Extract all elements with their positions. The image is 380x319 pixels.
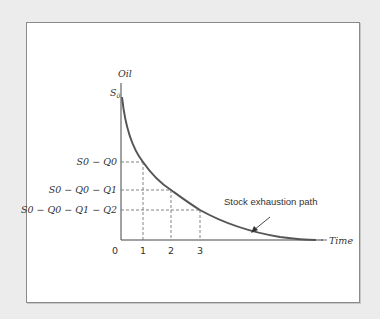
x-tick-3: 3 <box>197 245 203 256</box>
x-tick-1: 1 <box>140 245 146 256</box>
stock-exhaustion-diagram: Oil S0 S0 − Q0 S0 − Q0 − Q1 S0 − Q0 − Q1… <box>0 0 380 319</box>
origin-label: 0 <box>112 245 118 256</box>
x-axis-label: Time <box>329 235 353 246</box>
arrow-pointer <box>254 217 270 230</box>
label-s0: S0 <box>110 87 121 99</box>
label-s0-q0-q1-q2: S0 − Q0 − Q1 − Q2 <box>21 204 117 215</box>
label-s0-q0-q1: S0 − Q0 − Q1 <box>49 184 117 195</box>
curve-label: Stock exhaustion path <box>224 196 317 207</box>
stock-exhaustion-curve <box>122 97 316 240</box>
y-axis-label: Oil <box>118 68 132 79</box>
dashed-guides <box>121 162 200 240</box>
label-s0-q0: S0 − Q0 <box>77 156 117 167</box>
x-tick-2: 2 <box>168 245 174 256</box>
